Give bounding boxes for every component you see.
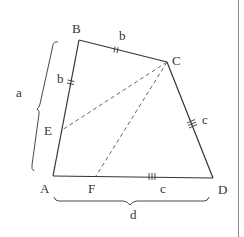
geometry-diagram: A B C D E F b b c c a d: [0, 0, 244, 237]
tick-FD: [149, 173, 155, 180]
vertex-label-F: F: [88, 181, 95, 196]
segment-CF: [96, 62, 167, 176]
segment-CE: [62, 62, 167, 130]
quadrilateral-ABCD: [53, 40, 213, 178]
brace-AD: [54, 197, 209, 205]
vertex-label-D: D: [218, 182, 227, 197]
tick-CD: [187, 120, 197, 129]
vertex-label-A: A: [40, 181, 50, 196]
vertex-label-C: C: [172, 53, 181, 68]
brace-label-d: d: [130, 207, 137, 222]
side-label-BE: b: [57, 71, 64, 86]
side-AB: [53, 40, 79, 176]
side-AD: [53, 176, 213, 178]
brace-label-a: a: [16, 85, 22, 100]
side-label-FD: c: [160, 181, 166, 196]
side-BC: [79, 40, 167, 62]
brace-AB: [32, 42, 58, 171]
side-label-CD: c: [202, 112, 208, 127]
vertex-label-B: B: [72, 21, 81, 36]
side-label-BC: b: [119, 28, 126, 43]
vertex-label-E: E: [44, 123, 52, 138]
dashed-segments: [62, 62, 167, 176]
